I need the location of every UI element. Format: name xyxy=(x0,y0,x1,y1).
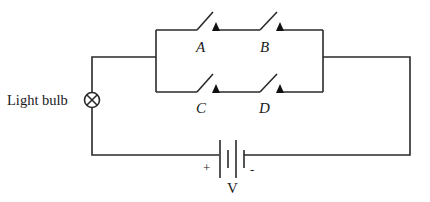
switch-b[interactable] xyxy=(260,12,284,31)
battery-positive-label: + xyxy=(203,160,210,175)
parallel-block xyxy=(156,12,323,93)
switch-a-label: A xyxy=(195,39,206,55)
switch-a[interactable] xyxy=(197,12,220,31)
battery-negative-label: - xyxy=(250,162,254,177)
circuit-diagram: Light bulb A B C D + - V xyxy=(0,0,430,202)
switch-b-label: B xyxy=(260,39,269,55)
battery-icon xyxy=(220,140,244,178)
light-bulb-icon[interactable] xyxy=(85,93,100,108)
top-branch xyxy=(156,12,323,31)
switch-d-label: D xyxy=(258,100,270,116)
switch-c-label: C xyxy=(196,100,207,116)
switch-c[interactable] xyxy=(197,74,220,93)
switch-d[interactable] xyxy=(260,74,284,93)
outer-wires xyxy=(92,57,410,155)
bottom-branch xyxy=(156,74,323,93)
light-bulb-label: Light bulb xyxy=(7,92,68,108)
battery-voltage-label: V xyxy=(227,180,238,196)
